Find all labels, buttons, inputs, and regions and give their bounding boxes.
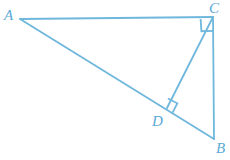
- vertex-label-C: C: [209, 1, 219, 16]
- geometry-figure: A C B D: [0, 0, 230, 160]
- vertex-label-B: B: [216, 141, 225, 156]
- vertex-label-A: A: [4, 8, 13, 23]
- vertex-label-D: D: [152, 114, 163, 129]
- segment-CB: [213, 17, 214, 139]
- geometry-diagram-canvas: [0, 0, 230, 160]
- segment-AB: [20, 19, 214, 139]
- segment-AC: [20, 17, 213, 19]
